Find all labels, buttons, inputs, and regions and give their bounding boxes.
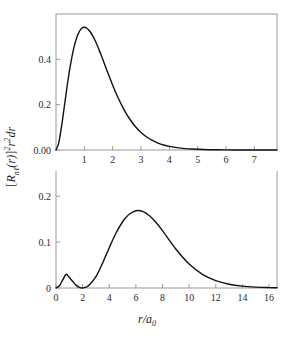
x-axis-label-sub: 0 — [152, 319, 156, 328]
x-tick-label: 2 — [80, 292, 85, 303]
x-tick-label: 1 — [82, 154, 87, 165]
x-tick-label: 7 — [252, 154, 257, 165]
y-axis-label-of-r: (r) — [4, 155, 18, 168]
y-axis-label-sub-nl: nℓ — [12, 168, 21, 176]
y-axis-label-close-bracket: ] — [4, 151, 18, 155]
y-tick-label: 0.4 — [39, 54, 52, 65]
x-tick-label: 8 — [160, 292, 165, 303]
x-tick-label: 14 — [237, 292, 247, 303]
x-axis-label-main: r/a — [138, 312, 152, 326]
x-tick-label: 4 — [167, 154, 172, 165]
panel-top-1s: 12345670.000.20.4 — [34, 14, 278, 165]
x-axis-label: r/a0 — [0, 312, 294, 328]
y-axis-label: [Rnℓ(r)]2r2dr — [3, 97, 20, 217]
panel-frame — [56, 171, 277, 288]
y-axis-label-open-bracket: [ — [4, 183, 18, 187]
y-axis-label-R: R — [4, 175, 18, 182]
x-tick-label: 16 — [264, 292, 274, 303]
x-tick-label: 5 — [195, 154, 200, 165]
x-tick-label: 6 — [133, 292, 138, 303]
y-axis-label-dr: dr — [4, 127, 18, 138]
y-axis-label-exponent-two-b: 2 — [3, 138, 12, 142]
x-tick-label: 10 — [184, 292, 194, 303]
y-tick-label: 0.2 — [39, 99, 52, 110]
y-tick-label: 0 — [46, 283, 51, 294]
y-tick-label: 0.1 — [39, 237, 52, 248]
radial-distribution-figure: [Rnℓ(r)]2r2dr r/a0 12345670.000.20.4 024… — [0, 0, 294, 340]
x-tick-label: 12 — [211, 292, 221, 303]
plot-canvas: 12345670.000.20.4 024681012141600.10.2 — [0, 0, 294, 340]
panel-bottom-2s: 024681012141600.10.2 — [39, 171, 278, 303]
panel-frame — [56, 14, 277, 150]
x-tick-label: 0 — [54, 292, 59, 303]
data-curve — [56, 27, 277, 150]
data-curve — [56, 211, 277, 288]
x-tick-label: 2 — [110, 154, 115, 165]
x-tick-label: 4 — [107, 292, 112, 303]
y-tick-label: 0.2 — [39, 191, 52, 202]
y-axis-label-r: r — [4, 142, 18, 147]
y-tick-label: 0.00 — [34, 145, 52, 156]
x-tick-label: 3 — [139, 154, 144, 165]
x-tick-label: 6 — [224, 154, 229, 165]
y-axis-label-exponent-two: 2 — [3, 146, 12, 150]
